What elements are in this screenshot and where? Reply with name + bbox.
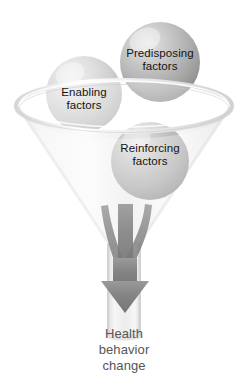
funnel-rim	[16, 80, 232, 133]
funnel-diagram-graphic	[0, 0, 248, 377]
diagram-canvas: Predisposing factors Enabling factors Re…	[0, 0, 248, 377]
